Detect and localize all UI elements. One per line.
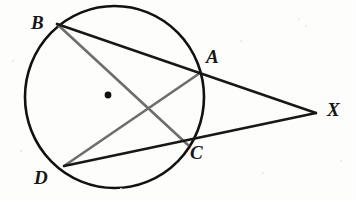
geometry-figure-root: B A C D X [0, 0, 356, 200]
vertex-label-c: C [190, 143, 203, 162]
vertex-label-d: D [34, 168, 48, 187]
secant-line-b-a-x [57, 24, 316, 113]
vertex-label-a: A [206, 47, 219, 66]
geometry-diagram-canvas [0, 0, 356, 200]
vertex-label-b: B [31, 13, 44, 32]
circle-outline [25, 6, 204, 188]
circle-center-dot [105, 92, 112, 99]
vertex-label-x: X [327, 100, 340, 119]
